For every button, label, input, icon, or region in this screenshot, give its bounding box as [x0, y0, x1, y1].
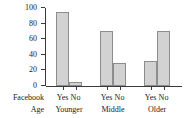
x-group-label-older: Older: [133, 105, 181, 115]
y-tick-100: 100: [0, 3, 46, 13]
row-label-facebook: Facebook: [0, 93, 44, 103]
x-group-label-middle: Middle: [89, 105, 137, 115]
bar-older-no: [157, 31, 170, 86]
x-tick-mark: [76, 87, 77, 90]
plot-area: [46, 8, 180, 86]
y-tick-label: 20: [29, 65, 37, 75]
y-tick-label: 0: [33, 81, 37, 91]
bar-chart-figure: Percent 020406080100 Facebook Age YesNoY…: [0, 0, 185, 118]
y-tick-80: 80: [0, 19, 46, 29]
bar-middle-no: [113, 63, 126, 86]
x-tick-mark: [164, 87, 165, 90]
y-tick-label: 40: [29, 50, 37, 60]
x-tick-mark: [151, 87, 152, 90]
x-label-older-no: No: [153, 93, 175, 103]
y-tick-40: 40: [0, 50, 46, 60]
row-label-age: Age: [0, 105, 44, 115]
y-tick-20: 20: [0, 65, 46, 75]
x-label-younger-no: No: [65, 93, 87, 103]
bar-younger-yes: [56, 12, 69, 86]
x-tick-mark: [120, 87, 121, 90]
bar-younger-no: [69, 82, 82, 86]
x-tick-mark: [107, 87, 108, 90]
x-group-label-younger: Younger: [45, 105, 93, 115]
y-tick-label: 60: [29, 34, 37, 44]
y-tick-60: 60: [0, 34, 46, 44]
bar-older-yes: [144, 61, 157, 86]
y-tick-label: 80: [29, 19, 37, 29]
x-axis-line: [46, 86, 182, 87]
x-tick-mark: [63, 87, 64, 90]
x-label-middle-no: No: [109, 93, 131, 103]
y-tick-label: 100: [25, 3, 37, 13]
bar-middle-yes: [100, 31, 113, 86]
y-tick-0: 0: [0, 81, 46, 91]
